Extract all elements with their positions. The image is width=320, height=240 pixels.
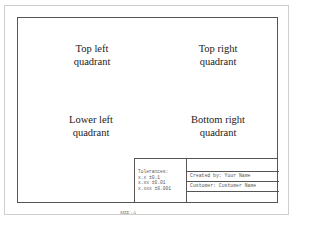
quadrant-line: Bottom right	[168, 113, 268, 126]
lower-left-quadrant-label: Lower left quadrant	[41, 113, 141, 139]
top-left-quadrant-label: Top left quadrant	[42, 42, 142, 68]
quadrant-line: Top left	[42, 42, 142, 55]
tolerances: Tolerances:x.x ±0.1x.xx ±0.01x.xxx ±0.00…	[138, 169, 171, 191]
title-block-rule	[186, 171, 279, 172]
quadrant-line: Top right	[168, 42, 268, 55]
tolerances-label: Tolerances:	[138, 169, 171, 175]
title-block: Tolerances:x.x ±0.1x.xx ±0.01x.xxx ±0.00…	[134, 158, 278, 203]
quadrant-line: quadrant	[41, 126, 141, 139]
quadrant-line: quadrant	[42, 55, 142, 68]
title-block-rule	[186, 191, 279, 192]
created-by-field: Created by: Your Name	[190, 173, 278, 178]
bottom-right-quadrant-label: Bottom right quadrant	[168, 113, 268, 139]
quadrant-line: Lower left	[41, 113, 141, 126]
title-block-rule	[186, 181, 279, 182]
quadrant-line: quadrant	[168, 55, 268, 68]
customer-field: Customer: Customer Name	[190, 183, 278, 188]
quadrant-line: quadrant	[168, 126, 268, 139]
sheet-size-label: SIZE : A	[120, 210, 136, 215]
tolerance-value: x.xxx ±0.001	[138, 186, 171, 192]
top-right-quadrant-label: Top right quadrant	[168, 42, 268, 68]
